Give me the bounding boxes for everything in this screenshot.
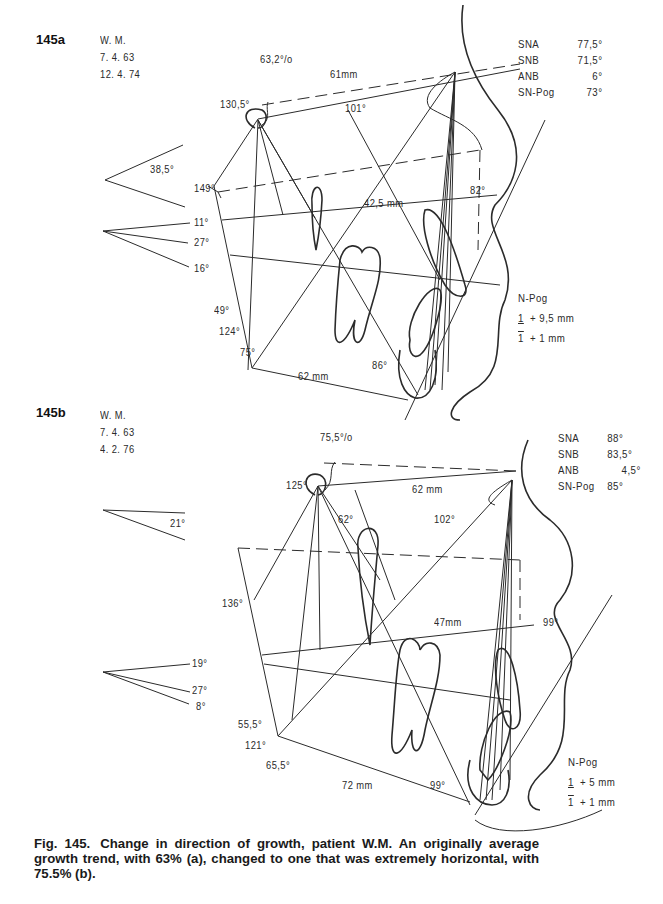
angle-99-lower: 99° xyxy=(430,779,445,791)
record-date: 12. 4. 74 xyxy=(100,66,140,83)
birth-date: 7. 4. 63 xyxy=(100,49,140,66)
measurement-row: ANB6° xyxy=(518,68,602,84)
length-mandibular-a: 62 mm xyxy=(298,370,329,382)
caption-text: Change in direction of growth, patient W… xyxy=(34,836,539,881)
npog-title: N-Pog xyxy=(568,752,615,772)
lower-incisor-row: 1 + 1 mm xyxy=(518,328,574,348)
angle-19: 19° xyxy=(192,657,207,669)
angle-99-upper: 99° xyxy=(543,616,558,628)
angle-gonial-lower-a: 75° xyxy=(240,346,255,358)
growth-ratio-a: 63,2°/o xyxy=(260,53,293,65)
angle-indicator-38-5 xyxy=(105,145,185,207)
patient-initials: W. M. xyxy=(100,407,135,424)
measurement-row: SNB83,5° xyxy=(558,446,641,462)
birth-date: 7. 4. 63 xyxy=(100,424,135,441)
angle-102: 102° xyxy=(434,513,455,525)
record-date: 4. 2. 76 xyxy=(100,441,135,458)
length-mandibular-b: 72 mm xyxy=(342,779,373,791)
measurements-table-a: SNA77,5° SNB71,5° ANB6° SN-Pog73° xyxy=(518,36,602,100)
angle-saddle-b: 125° xyxy=(286,479,307,491)
panel-b-label: 145b xyxy=(36,405,66,420)
angle-62: 62° xyxy=(338,513,353,525)
growth-ratio-b: 75,5°/o xyxy=(320,431,353,443)
upper-incisor-row: 1 + 5 mm xyxy=(568,772,615,792)
tracing-b xyxy=(103,440,612,831)
angle-82: 82° xyxy=(470,184,485,196)
angle-gonial-lower-b: 65,5° xyxy=(266,759,290,771)
angle-gonial-upper-b: 55,5° xyxy=(238,718,262,730)
panel-a-label: 145a xyxy=(36,32,65,47)
patient-initials: W. M. xyxy=(100,32,140,49)
measurement-row: SN-Pog73° xyxy=(518,84,602,100)
angle-11: 11° xyxy=(194,216,209,228)
upper-incisor-row: 1 + 9,5 mm xyxy=(518,308,574,328)
angle-101: 101° xyxy=(345,102,366,114)
npog-block-a: N-Pog 1 + 9,5 mm 1 + 1 mm xyxy=(518,288,574,348)
measurement-row: ANB4,5° xyxy=(558,462,641,478)
measurement-row: SN-Pog85° xyxy=(558,478,641,494)
length-anterior-cranial-b: 62 mm xyxy=(412,483,443,495)
npog-block-b: N-Pog 1 + 5 mm 1 + 1 mm xyxy=(568,752,615,812)
angle-149: 149° xyxy=(194,182,215,194)
length-palatal-a: 42,5 mm xyxy=(364,197,403,209)
angle-saddle-a: 130,5° xyxy=(220,98,250,110)
angle-gonial-b: 121° xyxy=(245,739,266,751)
measurement-row: SNB71,5° xyxy=(518,52,602,68)
lower-incisor-row: 1 + 1 mm xyxy=(568,792,615,812)
angle-16: 16° xyxy=(194,262,209,274)
angle-86: 86° xyxy=(372,359,387,371)
measurement-row: SNA77,5° xyxy=(518,36,602,52)
angle-136: 136° xyxy=(222,597,243,609)
angle-38-5: 38,5° xyxy=(150,163,174,175)
length-palatal-b: 47mm xyxy=(434,616,462,628)
angle-27-a: 27° xyxy=(194,236,209,248)
panel-b-patient-info: W. M. 7. 4. 63 4. 2. 76 xyxy=(100,407,135,458)
angle-21: 21° xyxy=(170,517,185,529)
measurements-table-b: SNA88° SNB83,5° ANB4,5° SN-Pog85° xyxy=(558,430,641,494)
length-anterior-cranial-a: 61mm xyxy=(330,68,358,80)
panel-a-patient-info: W. M. 7. 4. 63 12. 4. 74 xyxy=(100,32,140,83)
figure-caption: Fig. 145.Change in direction of growth, … xyxy=(34,836,539,881)
npog-title: N-Pog xyxy=(518,288,574,308)
angle-8: 8° xyxy=(196,700,206,712)
figure-number: Fig. 145. xyxy=(34,836,90,851)
tracing-a xyxy=(103,5,545,420)
angle-27-b: 27° xyxy=(192,684,207,696)
angle-gonial-a: 124° xyxy=(219,325,240,337)
measurement-row: SNA88° xyxy=(558,430,641,446)
angle-gonial-upper-a: 49° xyxy=(214,304,229,316)
